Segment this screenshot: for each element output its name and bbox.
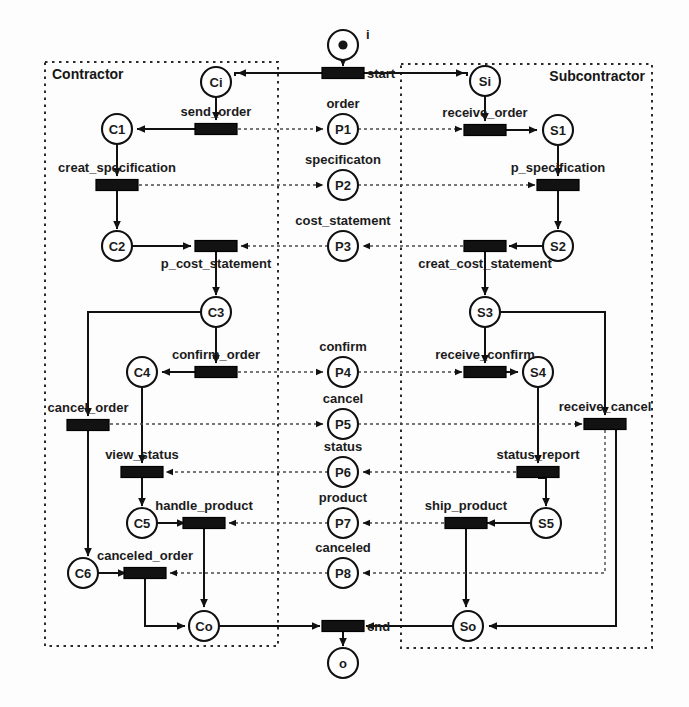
transition-start[interactable]: [322, 68, 364, 79]
transition-label-p_cost_statement: p_cost_statement: [161, 256, 272, 271]
petri-net-canvas: Contractor Subcontractor startsend_order…: [0, 0, 689, 707]
transition-label-creat_specification: creat_specification: [58, 160, 176, 175]
place-label-P4: P4: [335, 365, 352, 380]
place-label-Si: Si: [479, 74, 491, 89]
transition-label-end: end: [367, 619, 390, 634]
transition-label-view_status: view_status: [105, 447, 179, 462]
transition-label-receive_cancel: receive_cancel: [559, 399, 652, 414]
place-caption-P8: canceled: [315, 540, 371, 555]
place-label-S2: S2: [550, 239, 566, 254]
place-label-So: So: [460, 619, 477, 634]
place-label-C4: C4: [134, 365, 151, 380]
transition-label-creat_cost_statement: creat_cost_statement: [418, 256, 552, 271]
place-caption-P7: product: [319, 490, 368, 505]
transition-p_cost_statement[interactable]: [195, 241, 237, 252]
place-label-P6: P6: [335, 465, 351, 480]
transition-label-p_specification: p_specification: [511, 160, 606, 175]
transition-receive_cancel[interactable]: [584, 419, 626, 430]
place-label-P7: P7: [335, 516, 351, 531]
place-label-S4: S4: [530, 365, 547, 380]
transition-view_status[interactable]: [121, 467, 163, 478]
place-caption-P4: confirm: [319, 339, 367, 354]
transition-creat_cost_statement[interactable]: [464, 241, 506, 252]
petri-net-svg: Contractor Subcontractor startsend_order…: [0, 0, 689, 707]
transition-send_order[interactable]: [195, 124, 237, 135]
transition-p_specification[interactable]: [537, 180, 579, 191]
transition-receive_order[interactable]: [464, 125, 506, 136]
transition-label-receive_confirm: receive_confirm: [435, 347, 535, 362]
place-label-P8: P8: [335, 566, 351, 581]
place-label-C6: C6: [75, 566, 92, 581]
place-label-P3: P3: [335, 239, 351, 254]
place-caption-P1: order: [326, 96, 359, 111]
transition-label-start: start: [367, 66, 396, 81]
transition-handle_product[interactable]: [183, 518, 225, 529]
place-label-P5: P5: [335, 417, 351, 432]
transition-label-ship_product: ship_product: [425, 498, 508, 513]
container-label-contractor: Contractor: [52, 66, 124, 82]
transition-status_report[interactable]: [517, 467, 559, 478]
place-i[interactable]: [328, 30, 358, 60]
place-label-S1: S1: [550, 123, 566, 138]
transition-ship_product[interactable]: [445, 518, 487, 529]
place-label-S3: S3: [477, 305, 493, 320]
place-label-C3: C3: [208, 305, 225, 320]
transition-creat_specification[interactable]: [96, 180, 138, 191]
place-caption-P6: status: [324, 439, 362, 454]
transition-label-canceled_order: canceled_order: [97, 548, 193, 563]
transition-end[interactable]: [322, 621, 364, 632]
place-caption-P3: cost_statement: [295, 213, 391, 228]
transition-confirm_order[interactable]: [195, 367, 237, 378]
place-name-i: i: [366, 27, 370, 42]
place-label-o: o: [339, 656, 347, 671]
place-caption-P5: cancel: [323, 391, 363, 406]
place-label-C1: C1: [109, 122, 126, 137]
container-label-subcontractor: Subcontractor: [549, 68, 645, 84]
place-label-P1: P1: [335, 122, 351, 137]
transition-canceled_order[interactable]: [124, 568, 166, 579]
place-label-S5: S5: [538, 516, 554, 531]
place-caption-P2: specificaton: [305, 152, 381, 167]
transition-label-cancel_order: cancel_order: [48, 400, 129, 415]
place-label-Ci: Ci: [210, 75, 223, 90]
transition-label-handle_product: handle_product: [155, 498, 253, 513]
transition-receive_confirm[interactable]: [464, 367, 506, 378]
transition-cancel_order[interactable]: [67, 420, 109, 431]
transition-label-confirm_order: confirm_order: [172, 347, 260, 362]
place-label-C2: C2: [109, 239, 126, 254]
place-label-P2: P2: [335, 178, 351, 193]
place-label-Co: Co: [195, 619, 212, 634]
place-label-C5: C5: [134, 516, 151, 531]
transition-label-receive_order: receive_order: [442, 105, 527, 120]
transition-label-status_report: status_report: [496, 447, 580, 462]
transition-label-send_order: send_order: [181, 104, 252, 119]
